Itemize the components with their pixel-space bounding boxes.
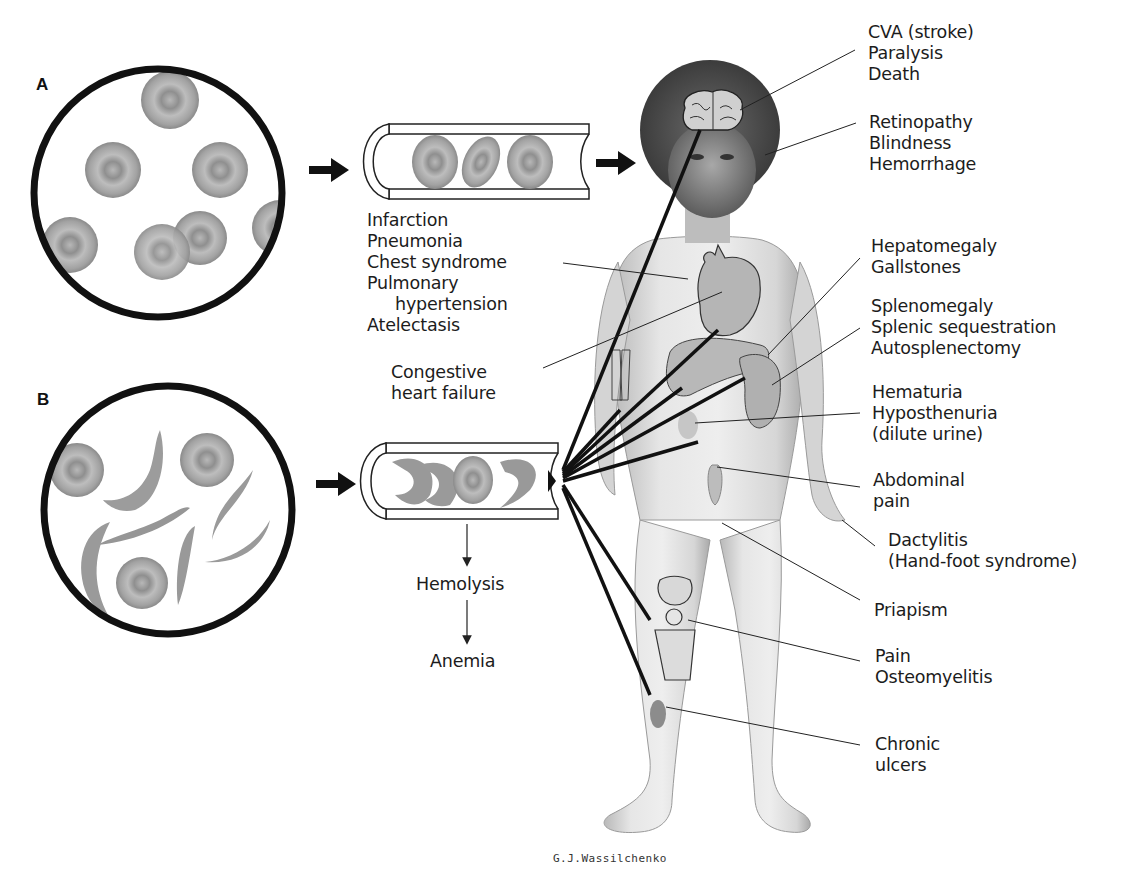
kidney-complications-label: Hematuria Hyposthenuria (dilute urine) [872,382,998,445]
panel-b-sickle-cells [44,386,292,634]
artist-signature: G.J.Wassilchenko [553,852,667,865]
bone-complications-label: Pain Osteomyelitis [875,646,992,688]
panel-a-normal-cells [34,69,308,317]
arrow-a-to-vessel [309,158,349,182]
dactylitis-label: Dactylitis (Hand-foot syndrome) [888,530,1077,572]
panel-label-b: B [37,390,49,410]
panel-label-a: A [36,75,48,95]
chronic-ulcers-label: Chronic ulcers [875,734,940,776]
priapism-label: Priapism [874,600,948,621]
anemia-label: Anemia [430,651,495,672]
congestive-heart-failure-label: Congestive heart failure [391,362,496,404]
arrow-b-to-vessel [316,472,356,496]
vessel-a-normal-flow [364,124,590,199]
child-figure [595,60,845,833]
hemolysis-label: Hemolysis [416,574,504,595]
brain-complications-label: CVA (stroke) Paralysis Death [868,22,974,85]
liver-complications-label: Hepatomegaly Gallstones [871,236,997,278]
eye-complications-label: Retinopathy Blindness Hemorrhage [869,112,976,175]
spleen-complications-label: Splenomegaly Splenic sequestration Autos… [871,296,1056,359]
vessel-b-occluded-flow [361,443,559,519]
arrow-vessel-a-to-child [596,151,636,175]
abdominal-pain-label: Abdominal pain [873,470,965,512]
pulmonary-complications-label: Infarction Pneumonia Chest syndrome Pulm… [367,210,508,336]
